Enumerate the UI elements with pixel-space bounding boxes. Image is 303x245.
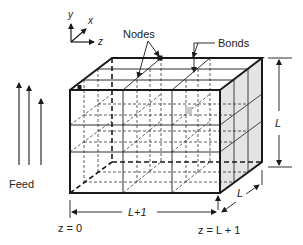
top-face-grid xyxy=(84,58,248,90)
axes-icon xyxy=(71,24,94,42)
highlight-node xyxy=(185,107,192,114)
front-face-grid xyxy=(70,90,220,193)
feed-arrows-icon xyxy=(19,83,41,165)
axis-z-label: z xyxy=(97,36,103,47)
z-start-label: z = 0 xyxy=(58,222,82,234)
lattice-diagram: y x z xyxy=(0,0,303,245)
axis-y-label: y xyxy=(67,9,74,20)
length-label: L+1 xyxy=(128,206,147,218)
axis-x-label: x xyxy=(87,15,94,26)
feed-label: Feed xyxy=(9,178,34,190)
height-label: L xyxy=(275,117,281,129)
nodes-label: Nodes xyxy=(123,28,155,40)
z-end-label: z = L + 1 xyxy=(198,224,240,236)
node-markers xyxy=(78,56,163,90)
height-dimension xyxy=(268,58,292,167)
bonds-label: Bonds xyxy=(218,37,250,49)
depth-label: L xyxy=(237,187,243,199)
